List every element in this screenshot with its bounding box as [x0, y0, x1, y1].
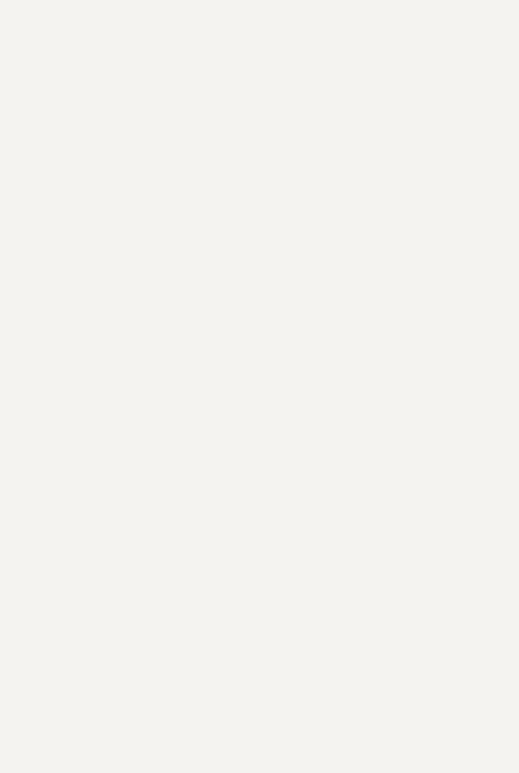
diagram-region	[22, 41, 229, 773]
diagram-boundary	[22, 41, 229, 773]
outline	[22, 41, 229, 174]
frame-outline	[22, 41, 229, 773]
chart-frame	[22, 41, 229, 174]
diagram-border-line	[22, 41, 229, 773]
frame-region	[22, 41, 229, 773]
boundary	[22, 41, 229, 773]
border	[22, 41, 229, 174]
diagram-outline	[22, 41, 229, 174]
visible-frame	[22, 41, 229, 773]
content-frame	[23, 42, 230, 175]
box	[22, 41, 229, 174]
figure-frame	[22, 41, 229, 174]
connection-lines	[0, 0, 519, 773]
diagram-border-rect	[22, 41, 229, 174]
plot-frame	[22, 41, 229, 174]
main-outline	[22, 41, 229, 773]
main-border	[22, 41, 229, 773]
main-frame	[22, 41, 229, 174]
diagram-frame-outline	[22, 41, 229, 174]
region-frame	[22, 41, 229, 773]
actual-frame	[22, 41, 229, 174]
diagram-border-frame	[22, 41, 229, 174]
panel-border	[22, 41, 229, 773]
true-frame	[22, 41, 229, 773]
frame-box	[22, 41, 229, 773]
frame-area	[22, 41, 229, 773]
diagram-box	[22, 41, 229, 174]
page-frame	[22, 41, 229, 773]
figure-border	[22, 41, 229, 174]
main-box	[22, 41, 229, 773]
panel-box	[22, 41, 229, 773]
main-panel	[22, 41, 229, 773]
frame	[22, 41, 229, 174]
diagram-area	[22, 41, 229, 773]
figure-box	[22, 41, 229, 773]
real-frame	[22, 41, 229, 174]
panel-outline	[22, 41, 229, 773]
diagram-panel	[22, 41, 229, 773]
area-frame	[22, 41, 229, 773]
panel-frame	[22, 41, 229, 773]
